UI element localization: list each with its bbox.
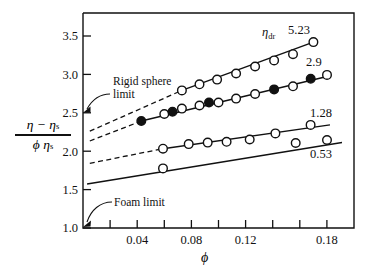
data-point	[160, 110, 169, 119]
data-point	[159, 144, 168, 153]
y-tick-labels: 1.0 1.5 2.0 2.5 3.0 3.5	[62, 29, 78, 235]
data-point	[289, 82, 298, 91]
data-point	[178, 104, 187, 113]
data-point	[270, 56, 279, 65]
data-point	[195, 101, 204, 110]
x-tick-label-0.18: 0.18	[316, 233, 338, 247]
data-point	[159, 164, 168, 173]
dashed-extension-2.9	[90, 121, 142, 141]
data-point	[213, 75, 222, 84]
y-tick-label-2: 2.0	[62, 145, 78, 159]
annotation-foam-limit-text: Foam limit	[114, 196, 166, 208]
series-0.53	[87, 136, 342, 184]
data-point	[271, 129, 280, 138]
data-point	[222, 138, 231, 147]
data-point	[203, 138, 212, 147]
y-axis-ticks	[83, 36, 91, 228]
series-label-0.53: 0.53	[310, 147, 332, 161]
data-point	[323, 136, 332, 145]
plot-canvas: 1.0 1.5 2.0 2.5 3.0 3.5 0.04 0.08 0.12 0…	[0, 0, 373, 274]
x-axis-ticks	[110, 220, 327, 228]
series-label-5.23: 5.23	[288, 23, 310, 37]
dashed-extrapolations	[90, 90, 182, 163]
x-tick-labels: 0.04 0.08 0.12 0.18	[126, 233, 338, 247]
chart-figure: η − ηs ϕ ηs ϕ	[0, 0, 373, 274]
data-point	[291, 139, 300, 148]
data-point	[289, 50, 298, 59]
x-tick-label-0.12: 0.12	[235, 233, 257, 247]
data-point	[232, 94, 241, 103]
eta-dr-subscript: dr	[268, 31, 275, 41]
annotation-foam-limit: Foam limit	[83, 196, 166, 227]
data-point	[306, 121, 315, 130]
annotation-rigid-sphere-limit: Rigid sphere limit	[83, 75, 171, 113]
series-label-1.28: 1.28	[310, 106, 332, 120]
y-tick-label-4: 3.0	[62, 68, 78, 82]
data-point	[137, 117, 146, 126]
data-point	[323, 71, 332, 80]
data-point	[245, 135, 254, 144]
data-point	[232, 69, 241, 78]
data-point	[178, 86, 187, 95]
data-point	[251, 90, 260, 99]
data-point	[309, 38, 318, 47]
data-point	[214, 98, 223, 107]
series-group-label: ηdr	[262, 25, 275, 41]
arrowhead-rigid-sphere	[83, 107, 91, 113]
y-tick-label-3: 2.5	[62, 106, 78, 120]
data-point	[168, 107, 177, 116]
data-point	[205, 98, 214, 107]
dashed-extension-1.28	[90, 149, 163, 164]
x-tick-label-0.04: 0.04	[126, 233, 149, 247]
series-line-0.53	[87, 143, 342, 185]
data-point	[251, 62, 260, 71]
annotation-leader-foam-limit	[87, 202, 112, 222]
series-label-2.9: 2.9	[306, 55, 322, 69]
data-point	[270, 85, 279, 94]
x-tick-label-0.08: 0.08	[180, 233, 202, 247]
y-tick-label-0: 1.0	[62, 221, 78, 235]
data-point	[184, 140, 193, 149]
annotation-rigid-sphere-line1: Rigid sphere	[113, 75, 171, 88]
data-point	[306, 75, 315, 84]
y-tick-label-1: 1.5	[62, 183, 78, 197]
annotation-rigid-sphere-line2: limit	[113, 88, 136, 100]
y-tick-label-5: 3.5	[62, 29, 78, 43]
data-point	[195, 80, 204, 89]
